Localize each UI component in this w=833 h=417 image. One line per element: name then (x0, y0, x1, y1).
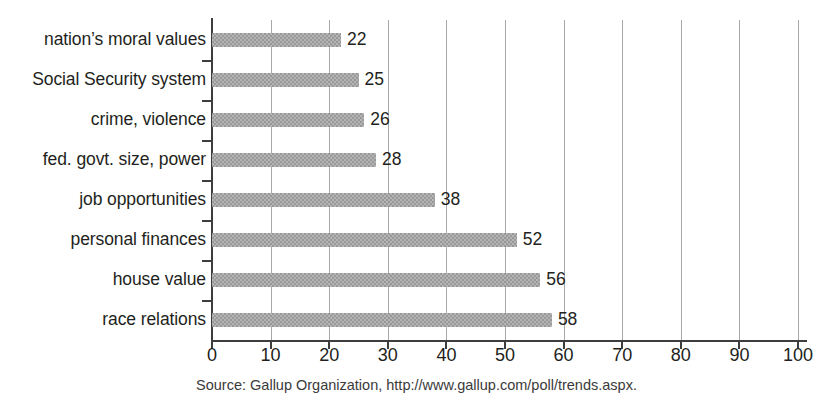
plot-area: 2225262838525658 (212, 20, 798, 340)
y-axis-tick (202, 180, 212, 182)
bar (212, 233, 517, 247)
bar (212, 73, 359, 87)
bar-chart-figure: nation’s moral valuesSocial Security sys… (0, 0, 833, 417)
y-axis-tick (202, 220, 212, 222)
x-axis-tick-label-60: 60 (554, 344, 574, 366)
y-axis-tick (202, 260, 212, 262)
category-label: Social Security system (0, 69, 206, 89)
category-label: nation’s moral values (0, 29, 206, 49)
gridline-60 (564, 20, 565, 340)
bar (212, 113, 364, 127)
gridline-50 (505, 20, 506, 340)
x-axis-tick-label-100: 100 (783, 344, 813, 366)
category-label: house value (0, 269, 206, 289)
bar (212, 313, 552, 327)
x-axis-tick-label-20: 20 (319, 344, 339, 366)
category-label: personal finances (0, 229, 206, 249)
x-axis-line (211, 340, 807, 342)
bar-value-label: 28 (382, 152, 401, 166)
gridline-100 (798, 20, 799, 340)
gridline-20 (329, 20, 330, 340)
bar (212, 33, 341, 47)
category-label: fed. govt. size, power (0, 149, 206, 169)
gridline-40 (446, 20, 447, 340)
bar-value-label: 58 (558, 312, 577, 326)
category-label: job opportunities (0, 189, 206, 209)
bar (212, 273, 540, 287)
y-axis-tick (202, 140, 212, 142)
x-axis-tick-label-0: 0 (207, 344, 217, 366)
bar-value-label: 38 (441, 192, 460, 206)
bar-value-label: 25 (365, 72, 384, 86)
bar (212, 193, 435, 207)
y-axis-tick (202, 100, 212, 102)
x-axis-tick-label-40: 40 (436, 344, 456, 366)
x-axis-tick-label-90: 90 (729, 344, 749, 366)
x-axis-tick-label-10: 10 (261, 344, 281, 366)
bar-value-label: 26 (370, 112, 389, 126)
gridline-80 (681, 20, 682, 340)
source-caption: Source: Gallup Organization, http://www.… (0, 376, 833, 394)
y-axis-tick (202, 60, 212, 62)
bar-value-label: 52 (523, 232, 542, 246)
x-axis-tick-label-70: 70 (612, 344, 632, 366)
category-label-column: nation’s moral valuesSocial Security sys… (0, 20, 206, 340)
bar (212, 153, 376, 167)
category-label: race relations (0, 309, 206, 329)
y-axis-tick (202, 300, 212, 302)
x-axis-tick-label-80: 80 (671, 344, 691, 366)
gridline-30 (388, 20, 389, 340)
gridline-90 (739, 20, 740, 340)
x-axis-tick-label-30: 30 (378, 344, 398, 366)
gridline-10 (271, 20, 272, 340)
gridline-70 (622, 20, 623, 340)
bar-value-label: 56 (546, 272, 565, 286)
category-label: crime, violence (0, 109, 206, 129)
x-axis-tick-label-50: 50 (495, 344, 515, 366)
bar-value-label: 22 (347, 32, 366, 46)
